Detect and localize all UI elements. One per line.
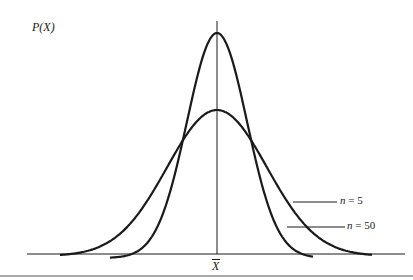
- y-axis-label: P(X): [32, 20, 55, 35]
- n50-value: = 50: [353, 219, 376, 231]
- curve-n5: [60, 110, 372, 255]
- n5-value: = 5: [346, 194, 363, 206]
- label-n5: n = 5: [340, 194, 363, 206]
- x-mean-label: X: [212, 259, 219, 274]
- curve-n50: [110, 33, 313, 258]
- label-n50: n = 50: [347, 219, 375, 231]
- distribution-plot: [0, 0, 413, 280]
